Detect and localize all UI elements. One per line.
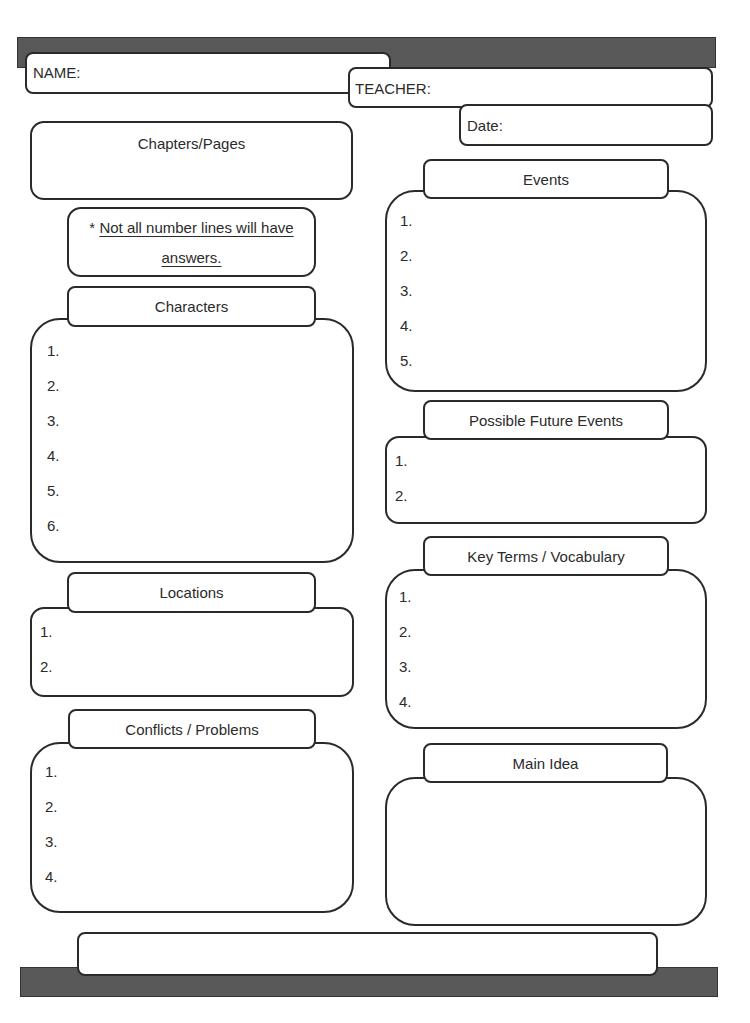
future-events-title: Possible Future Events	[423, 400, 669, 440]
list-item: 5.	[400, 352, 413, 369]
list-item: 1.	[40, 623, 53, 640]
characters-box[interactable]: 1. 2. 3. 4. 5. 6.	[30, 318, 354, 563]
list-item: 2.	[395, 487, 408, 504]
list-item: 6.	[47, 517, 60, 534]
locations-title: Locations	[67, 572, 316, 613]
list-item: 4.	[400, 317, 413, 334]
note-line-1: Not all number lines will have	[99, 219, 293, 236]
name-field[interactable]: NAME:	[25, 52, 391, 94]
future-events-box[interactable]: 1. 2.	[385, 436, 707, 524]
name-label: NAME:	[33, 65, 81, 80]
events-box[interactable]: 1. 2. 3. 4. 5.	[385, 190, 707, 392]
main-idea-title: Main Idea	[423, 743, 668, 783]
vocabulary-title: Key Terms / Vocabulary	[423, 536, 669, 576]
list-item: 3.	[45, 833, 58, 850]
conflicts-box[interactable]: 1. 2. 3. 4.	[30, 742, 354, 913]
list-item: 3.	[399, 658, 412, 675]
chapters-pages-box[interactable]: Chapters/Pages	[30, 121, 353, 200]
list-item: 4.	[399, 693, 412, 710]
list-item: 3.	[400, 282, 413, 299]
date-label: Date:	[467, 118, 503, 133]
list-item: 1.	[399, 588, 412, 605]
list-item: 4.	[47, 447, 60, 464]
teacher-field[interactable]: TEACHER:	[348, 67, 713, 108]
conflicts-title: Conflicts / Problems	[68, 709, 316, 749]
date-field[interactable]: Date:	[459, 104, 713, 146]
note-line-2: answers.	[161, 249, 221, 266]
events-title: Events	[423, 159, 669, 199]
note-asterisk: *	[89, 219, 99, 236]
list-item: 3.	[47, 412, 60, 429]
list-item: 2.	[400, 247, 413, 264]
teacher-label: TEACHER:	[355, 81, 431, 96]
list-item: 1.	[45, 763, 58, 780]
vocabulary-box[interactable]: 1. 2. 3. 4.	[385, 569, 707, 729]
list-item: 2.	[399, 623, 412, 640]
characters-title: Characters	[67, 286, 316, 327]
list-item: 2.	[47, 377, 60, 394]
chapters-pages-title: Chapters/Pages	[32, 133, 351, 153]
list-item: 1.	[47, 342, 60, 359]
locations-box[interactable]: 1. 2.	[30, 607, 354, 697]
note-text: * Not all number lines will have answers…	[69, 209, 314, 273]
list-item: 2.	[40, 658, 53, 675]
note-box: * Not all number lines will have answers…	[67, 207, 316, 277]
list-item: 2.	[45, 798, 58, 815]
list-item: 1.	[395, 452, 408, 469]
list-item: 1.	[400, 212, 413, 229]
list-item: 4.	[45, 868, 58, 885]
bottom-blank-field[interactable]	[77, 932, 658, 976]
main-idea-box[interactable]	[385, 777, 707, 926]
list-item: 5.	[47, 482, 60, 499]
